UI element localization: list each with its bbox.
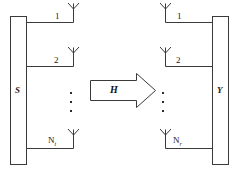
rx-feed-line-1: [166, 16, 213, 23]
rx-antenna-label-nr-sub: r: [180, 141, 182, 147]
tx-antenna-label-2: 2: [54, 56, 59, 65]
antenna-icon-tx-1: [68, 3, 79, 16]
diagram-canvas: [0, 0, 239, 175]
ellipsis-dot: [162, 92, 164, 94]
mimo-diagram: S Y H 1 2 Nt 1 2 Nr: [0, 0, 239, 175]
receiver-ellipsis: [161, 92, 165, 112]
rx-antenna-label-nr: Nr: [173, 136, 182, 147]
transmitter-block-label: S: [15, 86, 20, 95]
ellipsis-dot: [70, 92, 72, 94]
antenna-icon-rx-nr: [160, 129, 171, 142]
antenna-icon-rx-1: [160, 3, 171, 16]
antenna-icon-tx-2: [68, 47, 79, 60]
rx-feed-line-2: [166, 60, 213, 67]
tx-antenna-label-nt-sub: t: [55, 141, 57, 147]
tx-feed-line-2: [27, 60, 74, 67]
transmitter-feed-lines: [27, 16, 74, 149]
ellipsis-dot: [70, 101, 72, 103]
rx-antenna-label-1: 1: [177, 12, 182, 21]
tx-feed-line-1: [27, 16, 74, 23]
antenna-icon-rx-2: [160, 47, 171, 60]
rx-antenna-label-2: 2: [176, 56, 181, 65]
ellipsis-dot: [162, 110, 164, 112]
tx-antenna-label-1: 1: [55, 12, 60, 21]
ellipsis-dot: [162, 101, 164, 103]
antenna-icon-tx-nt: [68, 129, 79, 142]
transmitter-ellipsis: [69, 92, 73, 112]
receiver-antennas: [160, 3, 171, 142]
channel-arrow: [91, 74, 156, 108]
channel-matrix-label: H: [110, 85, 118, 95]
ellipsis-dot: [70, 110, 72, 112]
receiver-block-label: Y: [217, 86, 223, 95]
tx-antenna-label-nt: Nt: [48, 136, 56, 147]
transmitter-antennas: [68, 3, 79, 142]
receiver-feed-lines: [166, 16, 213, 149]
